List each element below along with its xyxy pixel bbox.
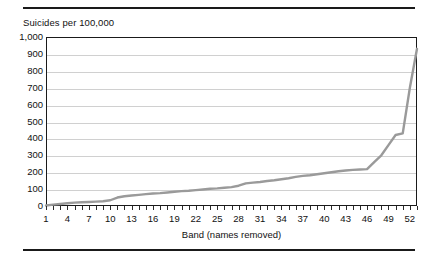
x-axis-tick [82,206,83,210]
x-axis-tick-label: 13 [126,213,137,225]
x-axis-tick [267,206,268,210]
x-axis-tick-label: 43 [340,213,351,225]
x-axis-tick [388,206,389,210]
x-axis-tick [103,206,104,210]
x-axis-tick-label: 40 [319,213,330,225]
x-axis-tick-labels: 147101316192225283134374043464952 [46,213,417,227]
x-axis-tick [396,206,397,210]
y-axis-tick-label: 200 [1,167,43,177]
x-axis-tick-label: 22 [191,213,202,225]
y-axis-tick-label: 800 [1,66,43,76]
x-axis-tick-label: 52 [405,213,416,225]
x-axis-tick [167,206,168,210]
x-axis-tick [374,206,375,210]
x-axis-tick [324,206,325,210]
x-axis-tick-label: 31 [255,213,266,225]
x-axis-tick [381,206,382,210]
y-axis-tick-label: 100 [1,184,43,194]
x-axis-tick [110,206,111,210]
x-axis-tick [217,206,218,210]
x-axis-tick [67,206,68,210]
x-axis-tick [160,206,161,210]
x-axis-tick [182,206,183,210]
x-axis-tick [246,206,247,210]
x-axis-tick [360,206,361,210]
y-axis-tick-labels: 1,0009008007006005004003002001000 [0,37,43,206]
x-axis-tick [53,206,54,210]
x-axis-tick [210,206,211,210]
x-axis-tick [174,206,175,210]
x-axis-tick [410,206,411,210]
series-line-chart [46,37,417,206]
x-axis-tick-label: 19 [169,213,180,225]
x-axis-tick [139,206,140,210]
x-axis-tick [232,206,233,210]
x-axis-tick [132,206,133,210]
y-axis-tick-label: 300 [1,150,43,160]
x-axis-tick [89,206,90,210]
x-axis-tick-label: 46 [362,213,373,225]
x-axis-tick-marks [46,206,417,211]
x-axis-tick-label: 1 [43,213,48,225]
x-axis-title: Band (names removed) [46,229,417,241]
x-axis-tick-label: 28 [233,213,244,225]
x-axis-tick [117,206,118,210]
y-axis-tick-label: 1,000 [1,32,43,42]
x-axis-tick-label: 49 [383,213,394,225]
y-axis-tick-label: 700 [1,83,43,93]
y-axis-tick-label: 0 [1,201,43,211]
x-axis-tick [203,206,204,210]
x-axis-tick [310,206,311,210]
suicide-rate-line [46,49,417,206]
x-axis-tick [296,206,297,210]
x-axis-tick [239,206,240,210]
x-axis-tick-label: 37 [298,213,309,225]
x-axis-tick [281,206,282,210]
y-axis-tick-label: 500 [1,117,43,127]
x-axis-tick [196,206,197,210]
x-axis-tick [75,206,76,210]
chart-title: Suicides per 100,000 [23,17,114,29]
x-axis-tick [46,206,47,210]
x-axis-tick [353,206,354,210]
x-axis-tick [417,206,418,210]
x-axis-tick [146,206,147,210]
x-axis-tick [224,206,225,210]
x-axis-tick-label: 34 [276,213,287,225]
x-axis-tick [96,206,97,210]
y-axis-tick-label: 400 [1,133,43,143]
y-axis-tick-label: 600 [1,100,43,110]
top-divider-rule [23,7,415,9]
x-axis-tick-label: 16 [148,213,159,225]
x-axis-tick [339,206,340,210]
x-axis-tick [274,206,275,210]
bottom-divider-rule [23,249,415,251]
x-axis-tick [60,206,61,210]
x-axis-tick [331,206,332,210]
plot-area [46,37,417,206]
x-axis-tick-label: 25 [212,213,223,225]
x-axis-tick [189,206,190,210]
x-axis-tick-label: 10 [105,213,116,225]
x-axis-tick [317,206,318,210]
x-axis-tick [153,206,154,210]
x-axis-tick [253,206,254,210]
x-axis-tick-label: 4 [65,213,70,225]
y-axis-tick-label: 900 [1,49,43,59]
x-axis-tick [289,206,290,210]
x-axis-tick [367,206,368,210]
x-axis-tick [124,206,125,210]
x-axis-tick-label: 7 [86,213,91,225]
x-axis-tick [260,206,261,210]
figure-container: Suicides per 100,000 1,00090080070060050… [0,0,435,267]
x-axis-tick [303,206,304,210]
x-axis-tick [346,206,347,210]
x-axis-tick [403,206,404,210]
